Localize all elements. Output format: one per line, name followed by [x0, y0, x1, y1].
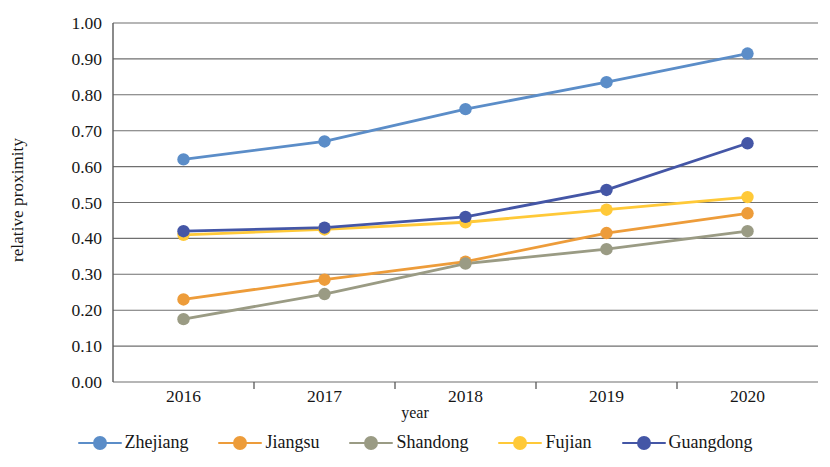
- y-axis-tick-label: 0.90: [71, 48, 102, 69]
- y-axis-tick-labels: 0.000.100.200.300.400.500.600.700.800.90…: [34, 0, 110, 400]
- legend-label: Shandong: [396, 432, 468, 453]
- y-axis-tick-label: 0.70: [71, 120, 102, 141]
- y-axis-title-text: relative proximity: [8, 138, 28, 262]
- y-axis-tick-label: 0.80: [71, 84, 102, 105]
- legend-label: Zhejiang: [125, 432, 189, 453]
- legend-marker-icon: [349, 435, 393, 451]
- legend-item-guangdong[interactable]: Guangdong: [622, 432, 753, 453]
- y-axis-tick-label: 0.00: [71, 372, 102, 393]
- y-axis-tick-label: 0.50: [71, 192, 102, 213]
- data-point-jiangsu: [600, 227, 612, 239]
- data-point-shandong: [318, 288, 330, 300]
- x-axis-title: year: [0, 404, 830, 422]
- chart-legend: ZhejiangJiangsuShandongFujianGuangdong: [0, 432, 830, 453]
- y-axis-tick-label: 0.60: [71, 156, 102, 177]
- data-point-zhejiang: [459, 103, 471, 115]
- legend-dot-icon: [513, 436, 527, 450]
- legend-dot-icon: [364, 436, 378, 450]
- data-point-guangdong: [600, 184, 612, 196]
- y-axis-title: relative proximity: [0, 0, 36, 400]
- data-point-fujian: [741, 191, 753, 203]
- data-point-jiangsu: [318, 273, 330, 285]
- data-point-shandong: [600, 243, 612, 255]
- data-point-guangdong: [741, 137, 753, 149]
- y-axis-tick-label: 0.30: [71, 264, 102, 285]
- data-point-shandong: [741, 225, 753, 237]
- y-axis-tick-label: 0.20: [71, 300, 102, 321]
- legend-item-shandong[interactable]: Shandong: [349, 432, 468, 453]
- legend-marker-icon: [622, 435, 666, 451]
- line-chart: relative proximity 0.000.100.200.300.400…: [0, 0, 830, 467]
- legend-marker-icon: [498, 435, 542, 451]
- data-point-guangdong: [177, 225, 189, 237]
- legend-label: Guangdong: [669, 432, 753, 453]
- data-point-zhejiang: [177, 153, 189, 165]
- plot-canvas: [113, 23, 818, 382]
- y-axis-tick-label: 0.40: [71, 228, 102, 249]
- data-point-zhejiang: [741, 47, 753, 59]
- legend-marker-icon: [218, 435, 262, 451]
- legend-dot-icon: [637, 436, 651, 450]
- data-point-fujian: [600, 203, 612, 215]
- series-line-shandong: [184, 231, 748, 319]
- legend-item-zhejiang[interactable]: Zhejiang: [78, 432, 189, 453]
- plot-area: [113, 23, 818, 382]
- data-point-jiangsu: [741, 207, 753, 219]
- data-point-guangdong: [459, 211, 471, 223]
- legend-label: Fujian: [545, 432, 591, 453]
- y-axis-tick-label: 1.00: [71, 13, 102, 34]
- legend-label: Jiangsu: [265, 432, 319, 453]
- legend-marker-icon: [78, 435, 122, 451]
- data-point-shandong: [459, 257, 471, 269]
- legend-item-fujian[interactable]: Fujian: [498, 432, 591, 453]
- y-axis-tick-label: 0.10: [71, 336, 102, 357]
- data-point-guangdong: [318, 221, 330, 233]
- legend-dot-icon: [233, 436, 247, 450]
- data-point-zhejiang: [600, 76, 612, 88]
- legend-dot-icon: [93, 436, 107, 450]
- data-point-jiangsu: [177, 293, 189, 305]
- data-point-shandong: [177, 313, 189, 325]
- data-point-zhejiang: [318, 135, 330, 147]
- legend-item-jiangsu[interactable]: Jiangsu: [218, 432, 319, 453]
